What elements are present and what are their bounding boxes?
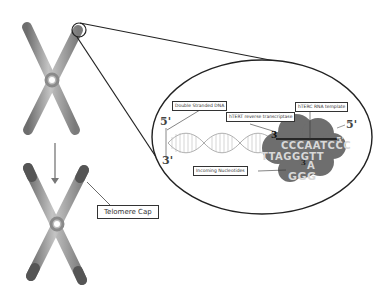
chromosome-bottom bbox=[28, 168, 84, 280]
zoom-line-top bbox=[80, 23, 280, 62]
diagram-canvas bbox=[0, 0, 389, 302]
prime-5-left: 5' bbox=[160, 115, 171, 128]
label-hterc: hTERC RNA template bbox=[295, 102, 348, 112]
chromosome-top bbox=[27, 27, 78, 130]
label-double-stranded-dna: Double Stranded DNA bbox=[172, 101, 227, 111]
zoom-line-bottom bbox=[77, 37, 158, 160]
prime-3-template: 3 bbox=[271, 130, 277, 140]
incoming-bases-ggg: GGG bbox=[288, 170, 317, 183]
label-telomere-cap: Telomere Cap bbox=[97, 205, 159, 219]
label-htert: hTERT reverse transcriptase bbox=[226, 112, 295, 122]
prime-5-right-top: 5' bbox=[346, 118, 357, 131]
arrow-down-icon bbox=[51, 143, 59, 184]
prime-3-left: 3' bbox=[162, 154, 173, 167]
rna-template-sequence: CCCAATCCC bbox=[281, 140, 351, 151]
label-incoming-nucleotides: Incoming Nucleotides bbox=[193, 166, 248, 176]
telomere-cap-pointer bbox=[87, 182, 110, 205]
